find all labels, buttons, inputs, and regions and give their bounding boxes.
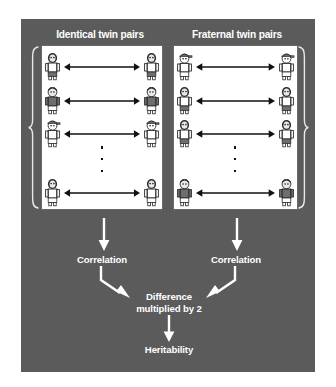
person-long-hair-white-shirt-icon: [278, 120, 295, 148]
double-headed-arrow-icon: [64, 62, 140, 72]
person-short-hair-dark-shirt-icon: [176, 179, 193, 207]
double-headed-arrow-icon: [196, 62, 275, 72]
double-headed-arrow-icon: [196, 96, 275, 106]
person-cap-white-shirt-icon: [143, 120, 160, 148]
table-row: [44, 86, 160, 116]
vertical-ellipsis-icon: [97, 146, 107, 172]
table-row: [44, 178, 160, 208]
person-long-hair-white-shirt-icon: [176, 87, 193, 115]
person-cap-white-shirt-icon: [278, 53, 295, 81]
table-row: [176, 52, 295, 82]
double-headed-arrow-icon: [64, 96, 140, 106]
table-row: [176, 86, 295, 116]
flow-arrow-left-to-correlation-icon: [97, 218, 111, 252]
correlation-label-fraternal: Correlation: [196, 254, 276, 266]
left-curly-brace-icon: [28, 45, 39, 210]
right-curly-brace-icon: [298, 45, 309, 210]
difference-label: Difference multiplied by 2: [117, 291, 221, 314]
table-row: [176, 119, 295, 149]
identical-twins-heading: Identical twin pairs: [38, 29, 162, 40]
person-cap-white-shirt-icon: [44, 120, 61, 148]
person-long-hair-white-shirt-icon: [278, 87, 295, 115]
table-row: [176, 178, 295, 208]
person-long-hair-white-shirt-icon: [143, 179, 160, 207]
table-row: [44, 52, 160, 82]
double-headed-arrow-icon: [196, 129, 275, 139]
vertical-ellipsis-icon: [230, 146, 240, 172]
flow-arrow-right-to-correlation-icon: [230, 218, 244, 252]
heritability-label: Heritability: [122, 344, 216, 356]
table-row: [44, 119, 160, 149]
difference-label-line1: Difference: [117, 291, 221, 303]
double-headed-arrow-icon: [64, 129, 140, 139]
person-short-hair-dark-shirt-icon: [44, 87, 61, 115]
fraternal-twins-heading: Fraternal twin pairs: [172, 29, 302, 40]
difference-label-line2: multiplied by 2: [117, 303, 221, 315]
person-long-hair-white-shirt-icon: [44, 179, 61, 207]
person-long-hair-white-shirt-icon: [176, 120, 193, 148]
person-cap-white-shirt-icon: [176, 53, 193, 81]
double-headed-arrow-icon: [196, 188, 275, 198]
flow-arrow-difference-to-heritability-icon: [162, 315, 176, 343]
person-long-hair-white-shirt-icon: [143, 53, 160, 81]
person-short-hair-dark-shirt-icon: [143, 87, 160, 115]
person-long-hair-white-shirt-icon: [44, 53, 61, 81]
correlation-label-identical: Correlation: [62, 254, 142, 266]
person-short-hair-dark-shirt-icon: [278, 179, 295, 207]
twin-study-diagram: Identical twin pairs Fraternal twin pair…: [0, 0, 336, 387]
double-headed-arrow-icon: [64, 188, 140, 198]
